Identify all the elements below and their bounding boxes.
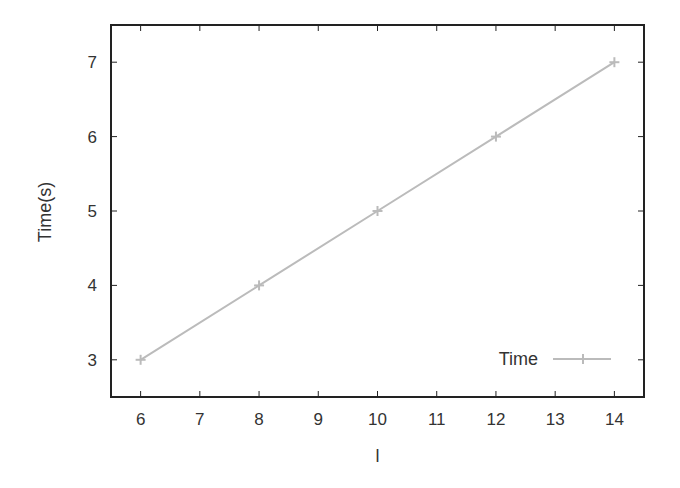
x-tick-label: 9 <box>314 410 323 429</box>
x-tick-label: 10 <box>368 410 387 429</box>
x-tick-label: 7 <box>195 410 204 429</box>
series-layer <box>136 57 620 365</box>
line-chart: 34567 67891011121314 Time l Time(s) <box>0 0 680 488</box>
x-tick-label: 14 <box>605 410 624 429</box>
x-tick-label: 12 <box>486 410 505 429</box>
x-tick-label: 6 <box>136 410 145 429</box>
legend: Time <box>499 349 611 369</box>
y-axis-ticks: 34567 <box>88 53 644 370</box>
x-axis-ticks: 67891011121314 <box>136 25 624 429</box>
x-tick-label: 13 <box>546 410 565 429</box>
x-tick-label: 11 <box>428 410 446 429</box>
y-tick-label: 4 <box>88 276 97 295</box>
legend-label: Time <box>499 349 538 369</box>
legend-line-sample <box>553 354 611 364</box>
x-tick-label: 8 <box>254 410 263 429</box>
y-axis-label: Time(s) <box>35 182 55 242</box>
y-tick-label: 5 <box>88 202 97 221</box>
x-axis-label: l <box>376 446 380 466</box>
y-tick-label: 3 <box>88 351 97 370</box>
y-tick-label: 7 <box>88 53 97 72</box>
y-tick-label: 6 <box>88 128 97 147</box>
